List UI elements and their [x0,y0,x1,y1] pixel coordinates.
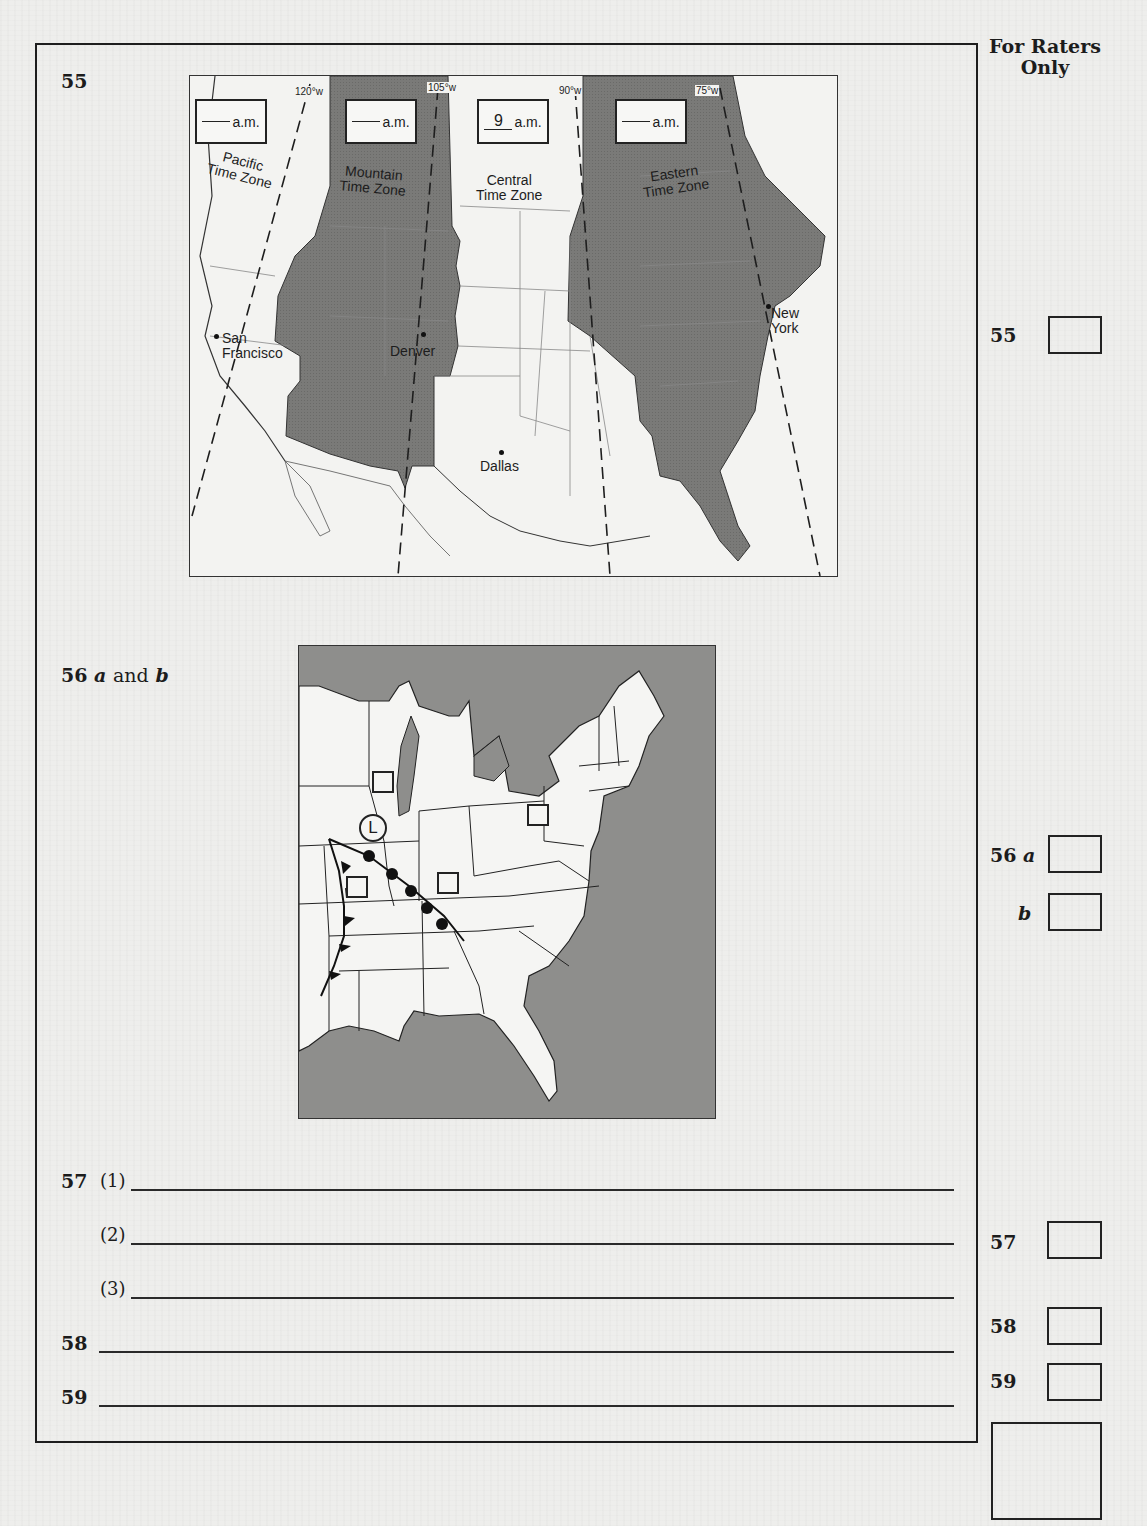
question-55-number: 55 [61,70,87,92]
question-56-part-a: a [94,664,106,686]
new-york-label-line1: New [771,306,799,321]
question-57-part-3-answer-line[interactable] [131,1297,954,1299]
question-56-part-b: b [155,664,168,686]
rater-59-label: 59 [990,1370,1016,1392]
mountain-zone-label: Mountain Time Zone [339,163,408,199]
station-box-kentucky[interactable] [437,872,459,894]
central-zone-label: Central Time Zone [476,173,542,203]
denver-dot [421,332,426,337]
question-58-number: 58 [61,1332,87,1354]
longitude-105w-label: 105°w [427,82,457,93]
eastern-time-blank[interactable] [622,121,650,122]
central-zone-label-line1: Central [476,173,542,188]
dallas-dot [499,450,504,455]
question-56-number: 56 [61,664,87,686]
eastern-time-answer-box[interactable]: a.m. [615,99,687,144]
pacific-am-label: a.m. [232,114,259,130]
question-56-and: and [113,664,149,686]
longitude-75w-label: 75°w [695,85,719,96]
rater-56-number: 56 [990,844,1016,866]
denver-label: Denver [390,344,435,359]
question-56-label: 56 a and b [61,664,169,686]
rater-57-label: 57 [990,1231,1016,1253]
rater-58-label: 58 [990,1315,1016,1337]
central-am-label: a.m. [514,114,541,130]
rater-58-score-box[interactable] [1047,1307,1102,1345]
rater-56-part-b: b [1018,902,1031,924]
question-57-part-2-label: (2) [100,1224,126,1245]
san-francisco-label: San Francisco [222,331,283,361]
dallas-label: Dallas [480,459,519,474]
question-59-number: 59 [61,1386,87,1408]
question-57-part-2-answer-line[interactable] [131,1243,954,1245]
pacific-time-answer-box[interactable]: a.m. [195,99,267,144]
time-zone-map: 120°w 105°w 90°w 75°w a.m. a.m. 9 a.m. a… [189,75,838,577]
question-57-part-1-answer-line[interactable] [131,1189,954,1191]
central-time-answer-box: 9 a.m. [477,99,549,144]
rater-56a-score-box[interactable] [1048,835,1102,873]
new-york-label-line2: York [771,321,799,336]
new-york-label: New York [771,306,799,336]
question-57-number: 57 [61,1170,87,1192]
time-zone-map-graphic [190,76,838,577]
raters-title: For Raters Only [985,36,1105,78]
rater-total-score-box[interactable] [991,1422,1102,1520]
longitude-90w-label: 90°w [558,85,582,96]
question-57-part-3-label: (3) [100,1278,126,1299]
longitude-120w-label: 120°w [294,86,324,97]
rater-55-label: 55 [990,324,1016,346]
question-59-answer-line[interactable] [99,1405,954,1407]
rater-56-part-a: a [1023,844,1035,866]
rater-56b-label: b [1018,902,1031,924]
rater-56b-score-box[interactable] [1048,893,1102,931]
low-pressure-center: L [359,814,387,842]
eastern-am-label: a.m. [652,114,679,130]
rater-56a-label: 56 a [990,844,1035,866]
san-francisco-dot [214,334,219,339]
station-box-pennsylvania[interactable] [527,804,549,826]
mountain-am-label: a.m. [382,114,409,130]
rater-55-score-box[interactable] [1048,316,1102,354]
central-zone-label-line2: Time Zone [476,188,542,203]
question-57-part-1-label: (1) [100,1170,126,1191]
mountain-time-blank[interactable] [352,121,380,122]
mountain-time-answer-box[interactable]: a.m. [345,99,417,144]
raters-title-line2: Only [985,57,1105,78]
station-box-wisconsin[interactable] [372,771,394,793]
san-francisco-label-line2: Francisco [222,346,283,361]
rater-59-score-box[interactable] [1047,1363,1102,1401]
central-time-value: 9 [484,113,512,130]
rater-57-score-box[interactable] [1047,1221,1102,1259]
question-58-answer-line[interactable] [99,1351,954,1353]
pacific-time-blank[interactable] [202,121,230,122]
weather-map: L [298,645,716,1119]
san-francisco-label-line1: San [222,331,283,346]
station-box-missouri[interactable] [346,876,368,898]
raters-title-line1: For Raters [985,36,1105,57]
